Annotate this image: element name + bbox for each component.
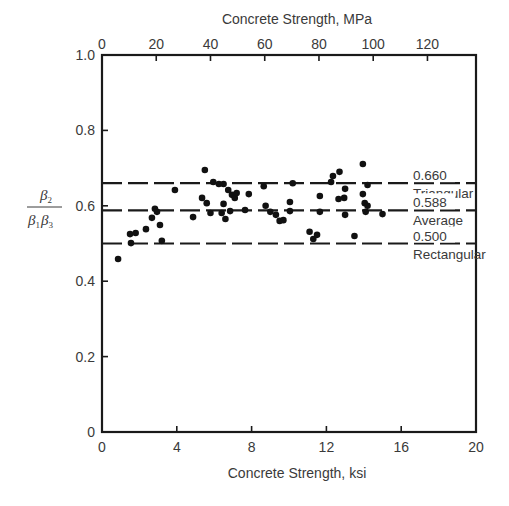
y-tick-label: 0.2	[76, 349, 96, 365]
data-point	[199, 195, 206, 202]
svg-text:β2: β2	[39, 187, 52, 205]
reference-name-label: Rectangular	[413, 247, 486, 262]
data-point	[190, 214, 197, 221]
data-point	[364, 203, 371, 210]
data-point	[317, 209, 324, 216]
data-point	[220, 201, 227, 208]
data-point	[159, 238, 166, 245]
data-point	[273, 212, 280, 219]
x-tick-label: 12	[319, 439, 335, 455]
x-tick-label: 16	[393, 439, 409, 455]
data-point	[317, 193, 324, 200]
data-point	[242, 207, 249, 214]
data-point	[203, 200, 210, 207]
x2-axis-title: Concrete Strength, MPa	[222, 11, 372, 27]
data-point	[314, 232, 321, 239]
data-point	[227, 208, 234, 215]
data-point	[115, 256, 122, 263]
x2-tick-label: 0	[98, 36, 106, 52]
y-axis-title: β2β1β3	[27, 187, 62, 230]
x-tick-label: 0	[98, 439, 106, 455]
data-point	[143, 226, 150, 233]
data-point	[132, 230, 139, 237]
data-point	[222, 216, 229, 223]
data-point	[328, 179, 335, 186]
data-point	[210, 179, 217, 186]
data-point	[220, 181, 227, 188]
data-point	[128, 240, 135, 247]
data-point	[360, 191, 367, 198]
data-point	[330, 173, 337, 180]
data-point	[287, 208, 294, 215]
reference-value-label: 0.660	[413, 168, 447, 183]
data-point	[280, 217, 287, 224]
x2-tick-label: 40	[203, 36, 219, 52]
data-point	[335, 196, 342, 203]
x2-tick-label: 120	[416, 36, 440, 52]
data-point	[152, 206, 159, 213]
data-point	[364, 182, 371, 189]
data-point	[341, 195, 348, 202]
data-point	[157, 222, 164, 229]
x2-tick-label: 100	[362, 36, 386, 52]
reference-value-label: 0.500	[413, 229, 447, 244]
data-point	[127, 231, 134, 238]
y-tick-label: 0.6	[76, 198, 96, 214]
x2-tick-label: 80	[311, 36, 327, 52]
x2-tick-label: 60	[257, 36, 273, 52]
y-tick-label: 1.0	[76, 47, 96, 63]
data-point	[306, 229, 313, 236]
data-point	[351, 233, 358, 240]
data-point	[342, 186, 349, 193]
data-point	[362, 209, 369, 216]
data-point	[218, 210, 225, 217]
data-point	[149, 215, 156, 222]
data-point	[287, 199, 294, 206]
data-point	[245, 191, 252, 198]
chart: 0.660Triangular0.588Average0.500Rectangu…	[0, 0, 509, 506]
data-point	[172, 187, 179, 194]
data-point	[202, 167, 209, 174]
x-tick-label: 4	[173, 439, 181, 455]
x-axis-title: Concrete Strength, ksi	[228, 465, 367, 481]
data-point	[289, 180, 296, 187]
data-point	[233, 190, 240, 197]
data-point	[267, 209, 274, 216]
x-tick-label: 20	[468, 439, 484, 455]
data-point	[379, 211, 386, 218]
reference-name-label: Average	[413, 213, 463, 228]
reference-value-label: 0.588	[413, 195, 447, 210]
data-points	[115, 161, 386, 263]
data-point	[260, 183, 267, 190]
data-point	[336, 169, 343, 176]
x-tick-label: 8	[248, 439, 256, 455]
y-tick-label: 0.8	[76, 122, 96, 138]
svg-text:β1β3: β1β3	[27, 212, 53, 230]
data-point	[207, 210, 214, 217]
data-point	[342, 212, 349, 219]
y-tick-label: 0.4	[76, 273, 96, 289]
x2-tick-label: 20	[148, 36, 164, 52]
data-point	[262, 203, 269, 210]
y-tick-label: 0	[87, 424, 95, 440]
data-point	[360, 161, 367, 168]
